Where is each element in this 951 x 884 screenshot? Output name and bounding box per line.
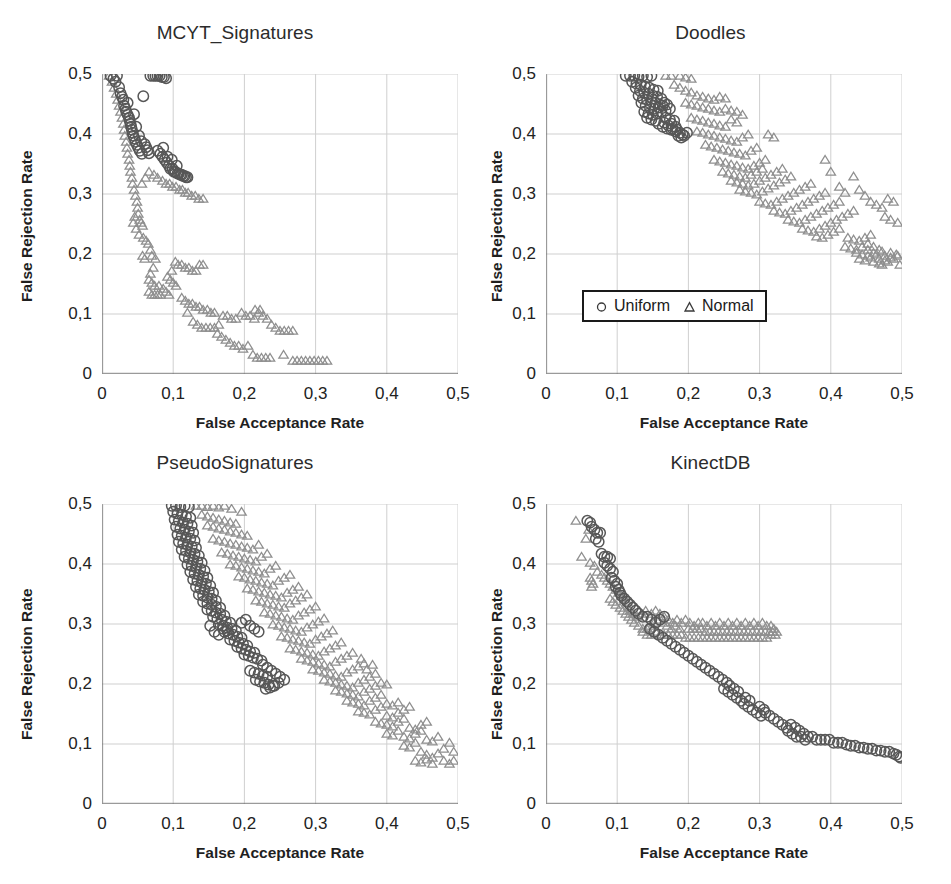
gridlines (546, 74, 902, 374)
legend-item-uniform: Uniform (595, 297, 670, 315)
y-tick-label: 0,4 (480, 554, 536, 574)
y-tick-label: 0,5 (480, 64, 536, 84)
x-tick-label: 0,4 (819, 384, 843, 404)
y-tick-label: 0,2 (480, 244, 536, 264)
panel-mcyt-signatures: MCYT_Signatures False Rejection Rate 00,… (0, 22, 470, 442)
plot-region: 00,10,20,30,40,5 00,10,20,30,40,5 (546, 504, 902, 804)
x-axis-label: False Acceptance Rate (102, 414, 458, 432)
legend-label-normal: Normal (702, 297, 754, 315)
y-tick-label: 0,3 (480, 614, 536, 634)
panel-title: PseudoSignatures (0, 452, 470, 474)
plot-canvas (102, 74, 458, 374)
y-tick-label: 0,3 (480, 184, 536, 204)
x-tick-label: 0,2 (677, 384, 701, 404)
y-tick-label: 0,5 (36, 494, 92, 514)
x-axis-label: False Acceptance Rate (546, 844, 902, 862)
panel-title: KinectDB (470, 452, 951, 474)
x-tick-label: 0 (541, 384, 550, 404)
y-tick-label: 0,5 (36, 64, 92, 84)
x-tick-label: 0,2 (233, 814, 257, 834)
y-tick-label: 0 (36, 794, 92, 814)
x-tick-label: 0,5 (890, 814, 914, 834)
data-points-normal (191, 504, 458, 767)
x-tick-label: 0,5 (446, 384, 470, 404)
y-tick-label: 0,2 (36, 674, 92, 694)
x-tick-label: 0,3 (748, 814, 772, 834)
x-tick-label: 0,3 (748, 384, 772, 404)
scatter-svg-2 (102, 504, 458, 804)
y-axis-label: False Rejection Rate (18, 588, 36, 740)
panel-pseudosignatures: PseudoSignatures False Rejection Rate 00… (0, 452, 470, 882)
y-tick-label: 0,4 (480, 124, 536, 144)
y-tick-label: 0,1 (480, 304, 536, 324)
x-tick-label: 0,1 (161, 814, 185, 834)
x-tick-label: 0,4 (375, 384, 399, 404)
plot-region: 00,10,20,30,40,5 00,10,20,30,40,5 (102, 74, 458, 374)
data-points-normal (571, 516, 781, 641)
x-tick-label: 0,1 (161, 384, 185, 404)
x-tick-label: 0,4 (819, 814, 843, 834)
axis-lines (102, 74, 458, 374)
x-tick-label: 0,5 (446, 814, 470, 834)
y-axis-label: False Rejection Rate (18, 150, 36, 302)
legend-item-normal: Normal (683, 297, 754, 315)
y-tick-label: 0,1 (36, 734, 92, 754)
panel-title: MCYT_Signatures (0, 22, 470, 44)
y-axis-label: False Rejection Rate (488, 588, 506, 740)
y-tick-label: 0 (480, 794, 536, 814)
x-tick-label: 0,3 (304, 814, 328, 834)
scatter-svg-0 (102, 74, 458, 374)
x-tick-label: 0 (97, 814, 106, 834)
x-tick-label: 0,1 (605, 814, 629, 834)
y-tick-label: 0,1 (480, 734, 536, 754)
triangle-marker-icon (683, 300, 696, 313)
x-tick-label: 0,4 (375, 814, 399, 834)
y-tick-label: 0,3 (36, 614, 92, 634)
y-tick-label: 0,3 (36, 184, 92, 204)
plot-canvas (546, 74, 902, 374)
figure-root: MCYT_Signatures False Rejection Rate 00,… (0, 0, 951, 884)
y-tick-label: 0,5 (480, 494, 536, 514)
circle-marker-icon (595, 300, 608, 313)
y-tick-label: 0,4 (36, 554, 92, 574)
y-tick-label: 0 (480, 364, 536, 384)
scatter-svg-1 (546, 74, 902, 374)
x-tick-label: 0,5 (890, 384, 914, 404)
x-tick-label: 0 (541, 814, 550, 834)
x-tick-label: 0,3 (304, 384, 328, 404)
gridlines (102, 74, 458, 374)
gridlines (102, 504, 458, 804)
y-tick-label: 0 (36, 364, 92, 384)
data-points-uniform (621, 74, 693, 143)
panel-title: Doodles (470, 22, 951, 44)
plot-canvas (546, 504, 902, 804)
plot-region: 00,10,20,30,40,5 00,10,20,30,40,5 (102, 504, 458, 804)
y-tick-label: 0,2 (36, 244, 92, 264)
legend: Uniform Normal (582, 290, 767, 322)
x-tick-label: 0,2 (233, 384, 257, 404)
axis-lines (546, 74, 902, 374)
axis-lines (102, 504, 458, 804)
x-tick-label: 0,2 (677, 814, 701, 834)
legend-label-uniform: Uniform (614, 297, 670, 315)
plot-region: 00,10,20,30,40,5 00,10,20,30,40,5 Unifor… (546, 74, 902, 374)
x-axis-label: False Acceptance Rate (102, 844, 458, 862)
scatter-svg-3 (546, 504, 902, 804)
data-points-normal (661, 74, 902, 268)
x-tick-label: 0,1 (605, 384, 629, 404)
x-axis-label: False Acceptance Rate (546, 414, 902, 432)
y-axis-label: False Rejection Rate (488, 150, 506, 302)
panel-doodles: Doodles False Rejection Rate 00,10,20,30… (470, 22, 951, 442)
panel-kinectdb: KinectDB False Rejection Rate 00,10,20,3… (470, 452, 951, 882)
y-tick-label: 0,4 (36, 124, 92, 144)
x-tick-label: 0 (97, 384, 106, 404)
plot-canvas (102, 504, 458, 804)
y-tick-label: 0,1 (36, 304, 92, 324)
y-tick-label: 0,2 (480, 674, 536, 694)
